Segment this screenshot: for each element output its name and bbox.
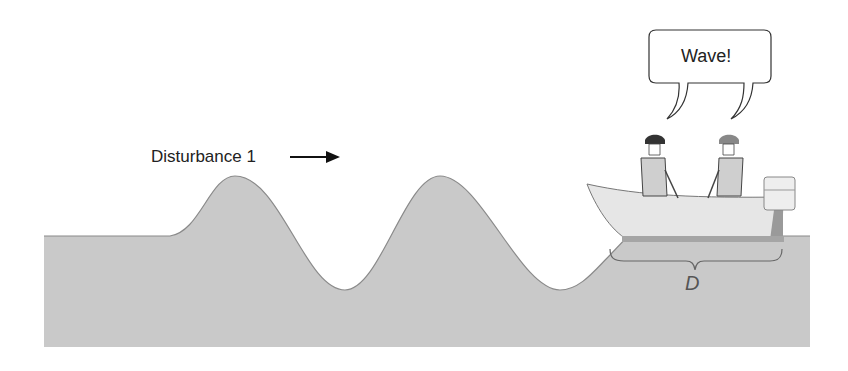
speech-bubble-text: Wave! <box>681 46 731 67</box>
arrow-right-icon <box>290 151 340 163</box>
speech-bubble <box>649 30 771 119</box>
boat <box>587 184 784 242</box>
outboard-motor-icon <box>764 177 795 210</box>
distance-label: D <box>685 272 699 295</box>
person-right-icon <box>708 135 743 198</box>
person-left-icon <box>641 135 678 198</box>
disturbance-label: Disturbance 1 <box>151 147 256 167</box>
